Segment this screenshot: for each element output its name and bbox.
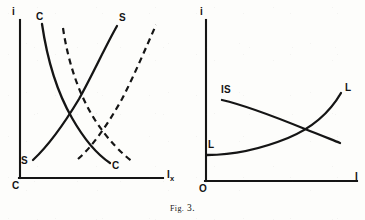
figure-caption-prefix: Fig. [170,204,184,213]
right-diagram-canvas [0,0,365,220]
right-curve-label-l-left: L [208,140,214,150]
right-y-axis-label: i [200,7,203,17]
figure-3: i C Ix C S S C i O I IS L L Fig. 3. [0,0,365,220]
right-curve-label-is: IS [221,85,231,95]
right-x-axis-label: I [355,172,358,182]
figure-caption: Fig. 3. [0,203,365,213]
right-origin-label: O [199,184,207,194]
right-curve-is [222,100,340,143]
figure-caption-number: 3. [187,203,195,213]
right-curve-label-l-right: L [345,83,351,93]
